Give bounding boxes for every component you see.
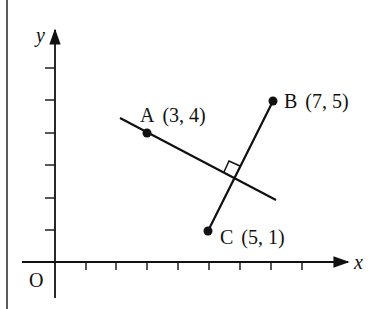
coordinate-diagram: y x O A(3, 4) B(7, 5) C(5, 1) [0, 0, 383, 309]
y-axis-label: y [34, 24, 45, 47]
perpendicular-line [120, 118, 276, 200]
point-c [204, 227, 213, 236]
x-ticks [86, 262, 302, 270]
origin-label: O [29, 269, 43, 291]
y-ticks [45, 68, 55, 230]
x-axis-label: x [353, 251, 363, 273]
point-c-label: C(5, 1) [220, 226, 285, 249]
segment-bc [208, 101, 273, 231]
point-a [143, 129, 152, 138]
point-b [269, 97, 278, 106]
point-a-label: A(3, 4) [140, 104, 206, 127]
point-b-label: B(7, 5) [284, 90, 349, 113]
